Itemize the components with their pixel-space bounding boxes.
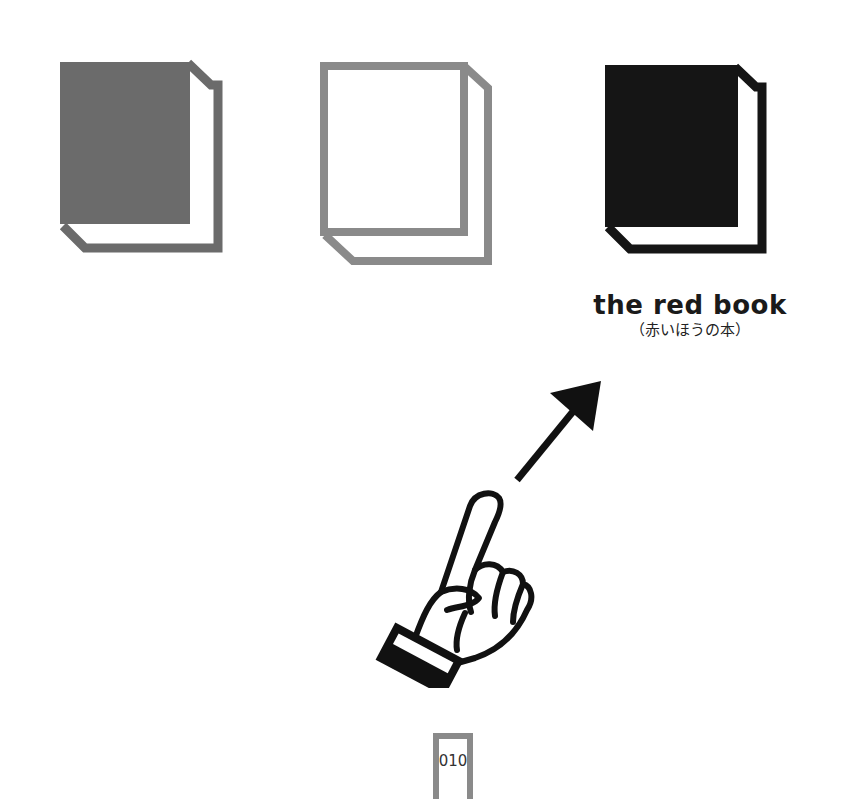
arrow-up-right-icon: [505, 375, 605, 485]
page-number: 010: [433, 752, 473, 770]
book-white-icon: [315, 55, 500, 270]
book-black: [600, 58, 772, 256]
book-gray: [55, 55, 225, 255]
caption-title: the red book: [575, 290, 805, 320]
book-white: [315, 55, 500, 270]
book-gray-icon: [55, 55, 225, 255]
pointing-hand-icon: [375, 488, 535, 688]
book-black-icon: [600, 58, 772, 256]
caption-subtitle: （赤いほうの本）: [575, 320, 805, 340]
